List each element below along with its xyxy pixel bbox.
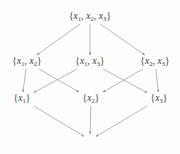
- node-x2: {x2}: [82, 93, 101, 105]
- node-x1: {x1}: [13, 93, 32, 105]
- node-x2x3: {x2, x3}: [139, 56, 171, 68]
- edge-x1x3-to-x3: [103, 69, 147, 93]
- edge-x3-to-empty: [96, 106, 147, 136]
- node-x3: {x3}: [150, 93, 169, 105]
- edge-layer: [23, 24, 158, 136]
- edge-x2-to-empty: [90, 106, 91, 134]
- edge-x1x2-to-x1: [23, 69, 26, 92]
- hasse-diagram-figure: {x1, x2, x3}{x1, x2}{x1, x3}{x2, x3}{x1}…: [0, 0, 180, 154]
- edge-top-to-x2x3: [100, 24, 145, 55]
- node-top: {x1, x2, x3}: [68, 11, 112, 23]
- node-x1x3: {x1, x3}: [74, 56, 106, 68]
- edge-x2x3-to-x3: [156, 69, 158, 92]
- edge-x1-to-empty: [34, 106, 84, 136]
- diagram-canvas: [0, 0, 180, 154]
- node-x1x2: {x1, x2}: [11, 56, 43, 68]
- edge-top-to-x1x2: [37, 24, 80, 55]
- edge-x1x2-to-x2: [39, 69, 79, 92]
- edge-x1x3-to-x1: [34, 69, 77, 92]
